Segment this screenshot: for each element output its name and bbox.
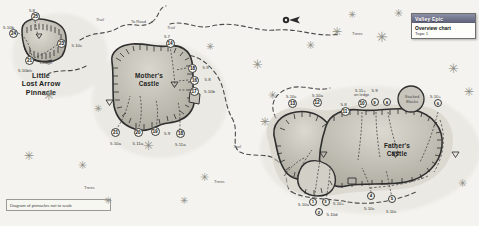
tree-icon: ✳	[104, 196, 112, 206]
on-ledge-label: on ledge	[354, 93, 369, 97]
legend-titlebar: Valley Epic	[412, 14, 475, 23]
route-number-bubble[interactable]: 6	[434, 99, 442, 107]
map-label-trail-mid: Trail	[167, 26, 175, 30]
route-grade-label: 5.10a	[298, 203, 309, 207]
route-grade-label: 5.10c	[386, 210, 397, 214]
legend-panel[interactable]: Valley Epic Overview chart Topo 1	[411, 13, 476, 39]
route-number-bubble[interactable]: 21	[111, 128, 120, 137]
formation-label-line: Mother's	[118, 72, 180, 80]
map-label-trees-upper: Trees	[352, 32, 363, 36]
formation-label-line: Castle	[118, 80, 180, 88]
formation-label-line: Lost Arrow	[6, 80, 76, 88]
route-grade-label: 5.10+	[430, 95, 441, 99]
route-number-bubble[interactable]: 25	[31, 12, 40, 21]
map-label-trees-lower: Trees	[84, 186, 95, 190]
map-label-trees-mid: Trees	[214, 180, 225, 184]
route-number-bubble[interactable]: 11	[341, 107, 350, 116]
route-number-bubble[interactable]: 1	[309, 198, 317, 206]
legend-line-1: Overview chart	[412, 23, 475, 31]
route-number-bubble[interactable]: 17	[190, 87, 199, 96]
route-grade-label: 5.10b/c	[18, 69, 32, 73]
route-grade-label: 5.9	[372, 89, 378, 93]
map-label-to-road: To Road	[131, 20, 146, 24]
tree-icon: ✳	[94, 104, 102, 114]
tree-icon: ✳	[200, 172, 209, 183]
route-number-bubble[interactable]: 21	[25, 56, 34, 65]
route-grade-label: 5.10c	[286, 95, 297, 99]
route-grade-label: 5.10c	[364, 207, 375, 211]
route-number-bubble[interactable]: 5	[388, 195, 396, 203]
route-number-bubble[interactable]: 20	[134, 128, 143, 137]
scale-disclaimer: Diagram of pinnacles not to scale	[6, 199, 111, 211]
route-grade-label: 5.10c	[72, 44, 83, 48]
tree-icon: ✳	[206, 42, 214, 52]
tree-icon: ✳	[394, 8, 403, 19]
route-number-bubble[interactable]: 14	[166, 39, 175, 48]
route-number-bubble[interactable]: 18	[188, 64, 197, 73]
tree-icon: ✳	[143, 139, 154, 152]
formation-label-line: Little	[6, 72, 76, 80]
route-number-bubble[interactable]: 18	[176, 129, 185, 138]
route-number-bubble[interactable]: 10	[358, 99, 367, 108]
tree-icon: ✳	[458, 178, 467, 189]
topo-diagram-canvas: Little Lost Arrow Pinnacle Mother's Cast…	[0, 0, 479, 226]
tree-icon: ✳	[180, 196, 188, 206]
tree-icon: ✳	[260, 116, 270, 128]
tree-icon: ✳	[43, 88, 55, 102]
route-grade-label: 5.10a	[110, 142, 121, 146]
route-number-bubble[interactable]: 23	[57, 39, 66, 48]
route-grade-label: 5.9	[164, 132, 170, 136]
formation-label-fathers-castle: Father's Castle	[366, 142, 428, 157]
route-grade-label: 5.10b	[3, 26, 14, 30]
tree-icon: ✳	[332, 26, 342, 38]
north-arrow-icon	[283, 17, 300, 24]
tree-icon: ✳	[464, 86, 474, 98]
tree-icon: ✳	[448, 62, 459, 75]
route-number-bubble[interactable]: 12	[313, 98, 322, 107]
formation-label-mothers-castle: Mother's Castle	[118, 72, 180, 87]
route-number-bubble[interactable]: 3	[322, 198, 330, 206]
formation-label-line: Castle	[366, 150, 428, 158]
tree-icon: ✳	[306, 40, 315, 51]
tree-icon: ✳	[376, 30, 388, 44]
route-grade-label: 5.11+	[355, 89, 366, 93]
route-grade-label: 5.8	[341, 103, 347, 107]
route-grade-label: 5.8	[205, 78, 211, 82]
legend-line-2: Topo 1	[412, 31, 475, 38]
route-grade-label: 5.10a	[312, 94, 323, 98]
tree-icon: ✳	[252, 58, 263, 71]
tree-icon: ✳	[268, 90, 277, 101]
formation-label-line: Pinnacle	[6, 89, 76, 97]
route-number-bubble[interactable]: 4	[367, 192, 375, 200]
route-number-bubble[interactable]: 13	[288, 99, 297, 108]
tree-icon: ✳	[78, 160, 87, 171]
formation-label-little-lost-arrow: Little Lost Arrow Pinnacle	[6, 72, 76, 97]
tree-icon: ✳	[24, 150, 34, 162]
tree-icon: ✳	[348, 10, 356, 20]
route-number-bubble[interactable]: 19	[151, 127, 160, 136]
route-number-bubble[interactable]: 8	[383, 98, 391, 106]
stacked-blocks-label-line: Blocks	[402, 99, 422, 104]
map-label-trail-lower: Trail	[233, 145, 241, 149]
route-grade-label: 5.10+	[333, 202, 344, 206]
route-grade-label: 5.11a	[133, 142, 144, 146]
formation-label-line: Father's	[366, 142, 428, 150]
route-grade-label: 5.8	[29, 9, 35, 13]
route-grade-label: 5.7	[164, 35, 170, 39]
stacked-blocks-label: Stacked Blocks	[402, 94, 422, 104]
route-number-bubble[interactable]: 16	[190, 76, 199, 85]
map-label-trail-upper: Trail	[96, 18, 104, 22]
route-grade-label: 5.10d	[327, 213, 338, 217]
route-grade-label: Ledge	[40, 61, 52, 65]
route-grade-label: 5.10b	[204, 90, 215, 94]
route-grade-label: 5.11a	[175, 143, 186, 147]
topo-vector-layer	[0, 0, 479, 226]
route-number-bubble[interactable]: 2	[315, 208, 323, 216]
route-number-bubble[interactable]: 9	[371, 98, 379, 106]
route-grade-label: 5.9	[203, 66, 209, 70]
